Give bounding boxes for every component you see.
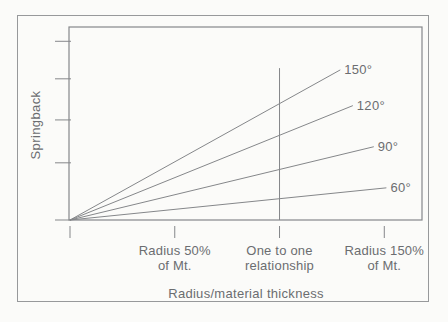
x-tick-label-radius-50: Radius 50% of Mt. — [139, 243, 211, 273]
y-axis-label: Springback — [28, 90, 43, 159]
springback-chart-figure: Springback 150° 120° 90° 60° Radius 50% … — [0, 0, 448, 322]
series-label-150deg: 150° — [344, 62, 372, 77]
x-tick-label-line: One to one — [245, 243, 314, 258]
x-axis-label: Radius/material thickness — [168, 286, 324, 301]
series-label-90deg: 90° — [378, 139, 399, 154]
x-tick-label-line: Radius 150% — [345, 243, 425, 258]
x-tick-label-radius-150: Radius 150% of Mt. — [345, 243, 425, 273]
series-label-120deg: 120° — [357, 98, 385, 113]
series-label-60deg: 60° — [390, 180, 411, 195]
x-tick-label-line: Radius 50% — [139, 243, 211, 258]
x-tick-label-one-to-one: One to one relationship — [245, 243, 314, 273]
chart-plot-area — [0, 0, 448, 322]
x-tick-label-line: of Mt. — [139, 258, 211, 273]
x-tick-label-line: of Mt. — [345, 258, 425, 273]
x-tick-label-line: relationship — [245, 258, 314, 273]
